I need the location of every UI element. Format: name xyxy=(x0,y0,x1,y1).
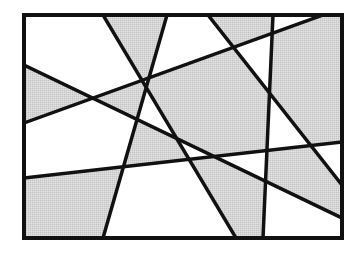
diagram-canvas xyxy=(0,0,360,255)
checkerboard-lines-diagram xyxy=(0,0,360,255)
